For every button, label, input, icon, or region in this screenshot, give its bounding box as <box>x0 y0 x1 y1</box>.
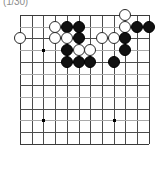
black-stone[interactable] <box>73 56 85 68</box>
white-stone[interactable] <box>119 21 131 33</box>
grid-line-horizontal <box>20 109 149 110</box>
white-stone[interactable] <box>14 32 26 44</box>
black-stone[interactable] <box>131 21 143 33</box>
white-stone[interactable] <box>119 9 131 21</box>
black-stone[interactable] <box>61 21 73 33</box>
grid-line-vertical <box>43 15 44 144</box>
white-stone[interactable] <box>73 44 85 56</box>
black-stone[interactable] <box>119 44 131 56</box>
black-stone[interactable] <box>61 56 73 68</box>
white-stone[interactable] <box>49 32 61 44</box>
star-point <box>42 119 45 122</box>
grid-line-vertical <box>149 15 150 144</box>
star-point <box>42 49 45 52</box>
black-stone[interactable] <box>73 21 85 33</box>
black-stone[interactable] <box>108 56 120 68</box>
white-stone[interactable] <box>96 32 108 44</box>
white-stone[interactable] <box>84 44 96 56</box>
grid-line-horizontal <box>20 120 149 121</box>
white-stone[interactable] <box>61 32 73 44</box>
white-stone[interactable] <box>108 32 120 44</box>
go-diagram-figure: (1/30) <box>0 0 163 170</box>
grid-line-horizontal <box>20 144 149 145</box>
grid-line-horizontal <box>20 85 149 86</box>
grid-line-vertical <box>32 15 33 144</box>
grid-line-horizontal <box>20 74 149 75</box>
black-stone[interactable] <box>84 56 96 68</box>
grid-line-horizontal <box>20 97 149 98</box>
star-point <box>113 119 116 122</box>
grid-line-vertical <box>137 15 138 144</box>
white-stone[interactable] <box>49 21 61 33</box>
black-stone[interactable] <box>61 44 73 56</box>
black-stone[interactable] <box>143 21 155 33</box>
grid-line-horizontal <box>20 132 149 133</box>
go-board[interactable] <box>0 0 163 170</box>
grid-line-vertical <box>90 15 91 144</box>
black-stone[interactable] <box>119 32 131 44</box>
black-stone[interactable] <box>73 32 85 44</box>
